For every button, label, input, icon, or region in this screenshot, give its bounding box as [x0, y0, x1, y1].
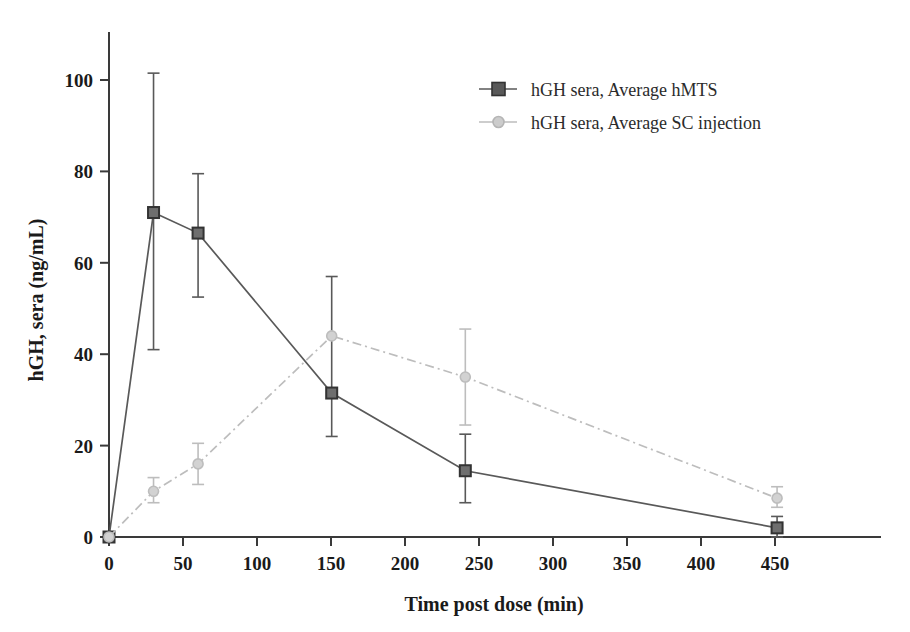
data-point-marker [460, 372, 470, 382]
data-point-marker [193, 459, 203, 469]
y-tick-label-0: 0 [84, 527, 94, 548]
chart-legend: hGH sera, Average hMTS hGH sera, Average… [479, 80, 761, 133]
x-tick-label-0: 0 [104, 553, 114, 574]
legend-entry-hmts[interactable]: hGH sera, Average hMTS [479, 80, 718, 100]
x-tick-label-250: 250 [465, 553, 494, 574]
y-axis-title: hGH, sera (ng/mL) [25, 219, 48, 382]
x-tick-label-300: 300 [539, 553, 568, 574]
y-axis-ticks [100, 80, 109, 537]
x-tick-label-50: 50 [174, 553, 193, 574]
y-tick-label-80: 80 [74, 161, 93, 182]
x-tick-label-450: 450 [761, 553, 790, 574]
data-point-marker [772, 522, 783, 533]
data-point-marker [326, 388, 337, 399]
y-tick-label-100: 100 [65, 70, 94, 91]
data-point-marker [327, 331, 337, 341]
x-axis-title: Time post dose (min) [404, 593, 583, 616]
data-point-marker [149, 486, 159, 496]
x-axis-ticks [109, 537, 775, 546]
series-hmts [104, 73, 784, 542]
y-tick-label-40: 40 [74, 344, 93, 365]
legend-label-hmts: hGH sera, Average hMTS [531, 80, 718, 100]
x-tick-label-200: 200 [391, 553, 420, 574]
x-axis-tick-labels: 0 50 100 150 200 250 300 350 400 450 [104, 553, 789, 574]
series-line [109, 213, 777, 537]
y-tick-label-20: 20 [74, 436, 93, 457]
series-layer [104, 73, 784, 542]
x-tick-label-350: 350 [613, 553, 642, 574]
legend-label-sc: hGH sera, Average SC injection [531, 113, 761, 133]
data-point-marker [460, 465, 471, 476]
y-tick-label-60: 60 [74, 253, 93, 274]
line-chart-plot: 0 20 40 60 80 100 0 50 100 150 200 250 [0, 0, 910, 632]
series-line [109, 336, 777, 537]
data-point-marker [193, 228, 204, 239]
chart-figure: 0 20 40 60 80 100 0 50 100 150 200 250 [0, 0, 910, 632]
legend-entry-sc[interactable]: hGH sera, Average SC injection [479, 113, 761, 133]
data-point-marker [104, 532, 114, 542]
data-point-marker [148, 207, 159, 218]
x-tick-label-400: 400 [687, 553, 716, 574]
x-tick-label-100: 100 [243, 553, 272, 574]
data-point-marker [772, 493, 782, 503]
y-axis-tick-labels: 0 20 40 60 80 100 [65, 70, 94, 548]
error-bar [326, 277, 338, 437]
x-tick-label-150: 150 [317, 553, 346, 574]
